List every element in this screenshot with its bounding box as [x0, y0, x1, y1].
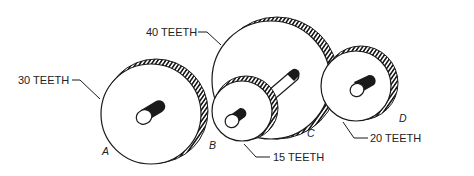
letter-a: A — [102, 146, 109, 157]
label-15-teeth: 15 TEETH — [273, 152, 324, 163]
label-20-teeth: 20 TEETH — [370, 133, 421, 144]
gear-a — [101, 59, 208, 164]
letter-c: C — [307, 128, 315, 139]
gear-drawing — [0, 0, 474, 176]
letter-d: D — [399, 113, 407, 124]
label-30-teeth: 30 TEETH — [18, 75, 69, 86]
letter-b: B — [209, 140, 216, 151]
label-40-teeth: 40 TEETH — [146, 27, 197, 38]
gear-train-diagram: 30 TEETH 40 TEETH 15 TEETH 20 TEETH A B … — [0, 0, 474, 176]
